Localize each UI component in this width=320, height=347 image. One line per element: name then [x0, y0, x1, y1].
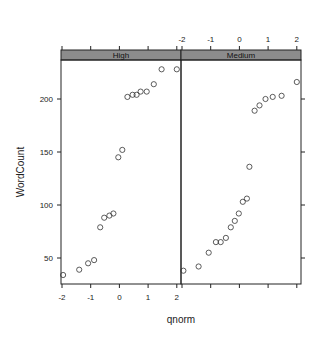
x-tick-label: 1	[266, 35, 271, 44]
x-tick-label: -2	[58, 293, 66, 302]
x-tick-label: -1	[87, 293, 95, 302]
x-axis-title: qnorm	[167, 314, 195, 325]
data-point	[151, 82, 156, 87]
panels-group: HighMedium	[61, 50, 302, 284]
data-point	[244, 196, 249, 201]
panel-medium: Medium	[181, 50, 301, 284]
data-point	[236, 211, 241, 216]
panel-high: High	[61, 50, 182, 284]
y-tick-label: 100	[40, 201, 54, 210]
data-point	[252, 108, 257, 113]
strip-label: Medium	[227, 51, 256, 60]
y-tick-label: 150	[40, 148, 54, 157]
data-point	[270, 94, 275, 99]
data-point	[144, 89, 149, 94]
x-tick-label: -1	[207, 35, 215, 44]
data-point	[116, 155, 121, 160]
data-point	[196, 264, 201, 269]
x-tick-label: 1	[146, 293, 151, 302]
x-tick-label: 2	[295, 35, 300, 44]
data-point	[294, 79, 299, 84]
data-point	[86, 261, 91, 266]
data-point	[159, 67, 164, 72]
panel-frame	[61, 60, 181, 284]
data-point	[257, 103, 262, 108]
data-point	[125, 94, 130, 99]
axes-group: -2-1012-2-101250100150200	[40, 35, 305, 302]
x-tick-label: 0	[237, 35, 242, 44]
data-point	[102, 215, 107, 220]
x-tick-label: 0	[117, 293, 122, 302]
data-point	[77, 267, 82, 272]
y-tick-label: 50	[44, 254, 53, 263]
data-point	[107, 213, 112, 218]
data-point	[92, 258, 97, 263]
data-point	[111, 211, 116, 216]
data-point	[228, 225, 233, 230]
strip-label: High	[113, 51, 129, 60]
data-point	[263, 96, 268, 101]
data-point	[181, 268, 186, 273]
y-axis-title: WordCount	[15, 147, 26, 198]
data-point	[120, 147, 125, 152]
data-point	[174, 67, 179, 72]
data-point	[206, 250, 211, 255]
data-point	[247, 164, 252, 169]
qq-plot-chart: HighMedium -2-1012-2-101250100150200 Wor…	[0, 0, 320, 347]
data-point	[138, 89, 143, 94]
data-point	[279, 93, 284, 98]
data-point	[223, 235, 228, 240]
data-point	[232, 218, 237, 223]
data-point	[98, 225, 103, 230]
y-tick-label: 200	[40, 95, 54, 104]
x-tick-label: 2	[175, 293, 180, 302]
x-tick-label: -2	[178, 35, 186, 44]
